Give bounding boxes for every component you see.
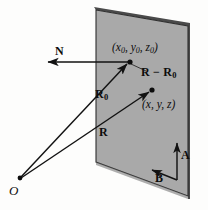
label-point-p0: (x0, y0, z0) (112, 42, 158, 55)
label-difference-vector: R − R0 (141, 66, 177, 80)
origin-marker (18, 176, 23, 181)
label-basis-b: B (155, 172, 163, 184)
vector-plane-figure: N (x0, y0, z0) R − R0 R0 (x, y, z) R O A… (0, 0, 208, 210)
label-vector-r: R (99, 126, 108, 138)
p0-close-paren: ) (154, 41, 158, 53)
r0-letter: R (95, 87, 104, 101)
diff-r0-sub: 0 (172, 70, 176, 80)
point-p0-marker (127, 59, 132, 64)
figure-canvas (0, 0, 208, 210)
diff-r0: R (163, 65, 172, 79)
r0-subscript: 0 (104, 92, 108, 102)
point-p-marker (149, 87, 154, 92)
label-point-p: (x, y, z) (142, 99, 175, 111)
label-basis-a: A (181, 149, 190, 161)
label-origin: O (9, 184, 18, 197)
label-normal-vector: N (55, 45, 64, 57)
diff-r: R (141, 65, 150, 79)
label-vector-r0: R0 (95, 88, 108, 102)
